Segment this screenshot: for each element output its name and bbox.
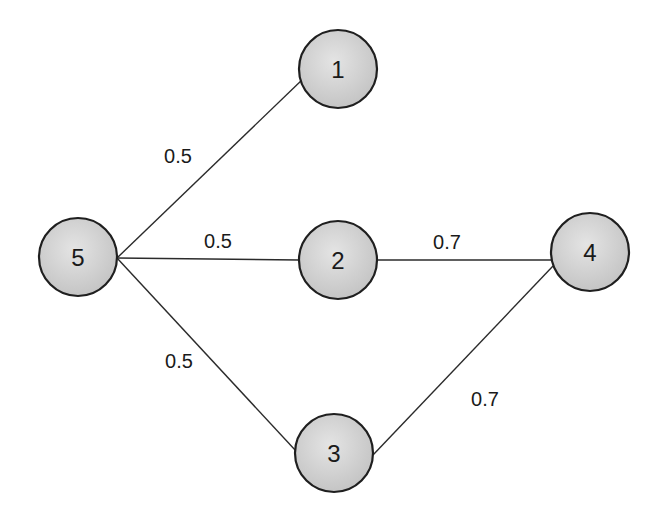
edge-weight-3-4: 0.7 xyxy=(471,388,499,410)
node-5-label: 5 xyxy=(71,244,84,271)
node-3-label: 3 xyxy=(327,440,340,467)
edge-weight-5-3: 0.5 xyxy=(165,350,193,372)
node-2-label: 2 xyxy=(331,247,344,274)
edge-5-2 xyxy=(117,258,299,260)
node-2: 2 xyxy=(299,221,377,299)
node-1-label: 1 xyxy=(331,56,344,83)
edge-weight-5-2: 0.5 xyxy=(204,230,232,252)
edge-weight-2-4: 0.7 xyxy=(433,231,461,253)
graph-diagram: 0.5 0.5 0.5 0.7 0.7 1 2 3 4 5 xyxy=(0,0,657,520)
node-1: 1 xyxy=(299,30,377,108)
node-4: 4 xyxy=(551,213,629,291)
edge-5-3 xyxy=(117,258,296,451)
edge-3-4 xyxy=(373,266,553,455)
node-4-label: 4 xyxy=(583,239,596,266)
node-3: 3 xyxy=(295,414,373,492)
node-5: 5 xyxy=(39,218,117,296)
edge-weight-5-1: 0.5 xyxy=(164,145,192,167)
